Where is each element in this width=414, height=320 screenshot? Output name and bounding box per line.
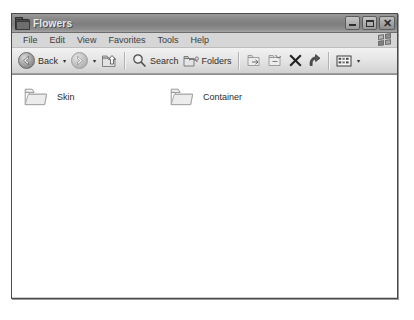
maximize-icon [366, 20, 374, 27]
delete-button[interactable] [286, 50, 305, 72]
back-dropdown-arrow-icon[interactable]: ▾ [63, 58, 66, 64]
menu-item-tools[interactable]: Tools [151, 33, 184, 47]
close-button[interactable]: ✕ [379, 16, 395, 30]
folder-icon [15, 17, 29, 29]
list-item[interactable]: Skin [24, 87, 75, 107]
views-button[interactable] [334, 50, 354, 72]
menu-item-help[interactable]: Help [184, 33, 215, 47]
explorer-window: Flowers ✕ File Edit View Favorites Tools… [11, 13, 398, 299]
folder-icon [24, 87, 48, 107]
copy-to-button[interactable] [265, 50, 286, 72]
list-item[interactable]: Container [170, 87, 242, 107]
folders-label: Folders [202, 56, 232, 66]
search-button[interactable]: Search [130, 50, 181, 72]
views-dropdown-arrow-icon[interactable]: ▾ [357, 58, 360, 64]
list-item-label: Skin [57, 92, 75, 102]
back-button[interactable]: Back [16, 50, 60, 72]
delete-x-icon [288, 53, 303, 68]
forward-button[interactable] [69, 50, 90, 72]
forward-arrow-icon [71, 52, 88, 69]
menu-item-favorites[interactable]: Favorites [102, 33, 151, 47]
window-title: Flowers [33, 18, 345, 29]
toolbar: Back ▾ ▾ [12, 48, 397, 74]
views-grid-icon [336, 54, 352, 68]
up-folder-icon [101, 53, 118, 69]
search-label: Search [150, 56, 179, 66]
windows-flag-icon [378, 33, 393, 48]
undo-button[interactable] [305, 50, 324, 72]
toolbar-separator-3 [328, 52, 330, 70]
menu-item-edit[interactable]: Edit [44, 33, 72, 47]
folders-button[interactable]: Folders [181, 50, 234, 72]
menu-item-file[interactable]: File [17, 33, 44, 47]
search-icon [132, 53, 147, 68]
copy-to-folder-icon [267, 53, 284, 68]
move-to-folder-icon [246, 53, 263, 68]
back-arrow-icon [18, 52, 35, 69]
minimize-icon [349, 24, 356, 26]
file-list-area[interactable]: Skin Container [12, 74, 397, 297]
toolbar-separator-1 [124, 52, 126, 70]
menu-item-view[interactable]: View [71, 33, 102, 47]
maximize-button[interactable] [362, 16, 377, 30]
title-bar[interactable]: Flowers ✕ [12, 14, 397, 33]
list-item-label: Container [203, 92, 242, 102]
screen: Flowers ✕ File Edit View Favorites Tools… [0, 0, 414, 320]
folder-icon [170, 87, 194, 107]
minimize-button[interactable] [345, 16, 360, 30]
window-controls: ✕ [345, 16, 395, 30]
close-icon: ✕ [380, 17, 394, 29]
folders-icon [183, 54, 199, 68]
menu-bar: File Edit View Favorites Tools Help [12, 33, 397, 48]
forward-dropdown-arrow-icon[interactable]: ▾ [93, 58, 96, 64]
back-label: Back [38, 56, 58, 66]
undo-arrow-icon [307, 53, 322, 68]
move-to-button[interactable] [244, 50, 265, 72]
up-button[interactable] [99, 50, 120, 72]
toolbar-separator-2 [238, 52, 240, 70]
